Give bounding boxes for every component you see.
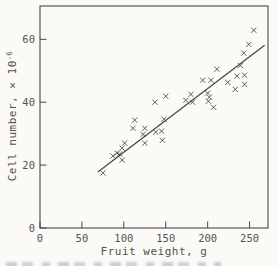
- data-point-marker: [160, 138, 165, 143]
- data-point-marker: [225, 80, 230, 85]
- data-point-marker: [215, 67, 220, 72]
- x-tick-label: 0: [37, 232, 43, 244]
- data-point-marker: [162, 117, 167, 122]
- x-tick-label: 250: [240, 232, 259, 244]
- data-point-marker: [142, 126, 147, 131]
- cropped-caption-remnant: [6, 262, 221, 266]
- y-axis-title: Cell number, × 10-6: [5, 51, 20, 181]
- x-tick-label: 150: [156, 232, 175, 244]
- x-tick-label: 200: [198, 232, 217, 244]
- plot-frame: [40, 6, 268, 228]
- data-point-marker: [111, 154, 116, 159]
- y-tick-label: 20: [22, 159, 35, 171]
- data-point-marker: [189, 92, 194, 97]
- data-point-marker: [159, 129, 164, 134]
- data-point-marker: [200, 78, 205, 83]
- x-axis-title: Fruit weight, g: [40, 245, 268, 258]
- data-point-marker: [205, 91, 210, 96]
- data-point-marker: [153, 100, 158, 105]
- x-axis-title-text: Fruit weight, g: [101, 245, 208, 258]
- data-point-marker: [242, 82, 247, 87]
- data-point-marker: [206, 99, 211, 104]
- data-point-marker: [131, 126, 136, 131]
- y-tick-label: 40: [22, 96, 35, 108]
- data-point-marker: [184, 98, 189, 103]
- data-point-marker: [246, 42, 251, 47]
- x-tick-label: 100: [114, 232, 133, 244]
- y-axis-title-text: Cell number, × 10: [6, 60, 19, 181]
- data-point-marker: [101, 171, 106, 176]
- data-point-marker: [153, 130, 158, 135]
- data-point-marker: [120, 146, 125, 151]
- y-tick-label: 0: [29, 222, 35, 234]
- y-axis-title-exponent: -6: [5, 51, 14, 60]
- data-point-marker: [233, 87, 238, 92]
- data-point-marker: [132, 118, 137, 123]
- data-point-marker: [163, 94, 168, 99]
- data-point-marker: [120, 158, 125, 163]
- data-point-marker: [142, 141, 147, 146]
- data-point-marker: [122, 141, 127, 146]
- data-point-marker: [242, 73, 247, 78]
- data-point-marker: [241, 51, 246, 56]
- y-tick-label: 60: [22, 33, 35, 45]
- data-point-marker: [251, 28, 256, 33]
- data-point-marker: [209, 78, 214, 83]
- data-point-marker: [211, 105, 216, 110]
- data-point-marker: [235, 74, 240, 79]
- data-point-marker: [141, 132, 146, 137]
- scatter-figure: 0501001502002500204060 Cell number, × 10…: [0, 0, 277, 266]
- x-tick-label: 50: [76, 232, 89, 244]
- chart-canvas: 0501001502002500204060: [0, 0, 277, 266]
